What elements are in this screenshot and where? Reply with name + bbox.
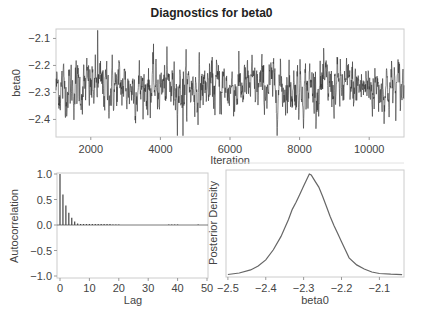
svg-text:−0.5: −0.5 (30, 245, 52, 257)
svg-text:−2.1: −2.1 (28, 32, 50, 44)
svg-text:−2.3: −2.3 (28, 86, 50, 98)
svg-text:2000: 2000 (79, 143, 103, 155)
diagnostics-figure: Diagnostics for beta0 200040006000800010… (0, 0, 423, 320)
svg-text:8000: 8000 (287, 143, 311, 155)
trace-ylabel: beta0 (10, 69, 22, 97)
svg-text:−2.2: −2.2 (28, 59, 50, 71)
svg-text:−1.0: −1.0 (30, 270, 52, 282)
density-x-axis: −2.5−2.4−2.3−2.2−2.1 (217, 277, 390, 294)
autocorrelation-plot: 01020304050 1.00.50.0−0.5−1.0 Lag Autoco… (8, 168, 213, 306)
acf-y-axis: 1.00.50.0−0.5−1.0 (30, 168, 57, 282)
trace-y-axis: −2.1−2.2−2.3−2.4 (28, 32, 56, 125)
trace-plot: 200040006000800010000 −2.1−2.2−2.3−2.4 I… (10, 29, 404, 166)
svg-text:−2.4: −2.4 (28, 113, 50, 125)
svg-text:20: 20 (113, 282, 125, 294)
svg-text:−2.2: −2.2 (331, 282, 353, 294)
svg-text:50: 50 (201, 282, 213, 294)
density-plot-frame (226, 170, 404, 277)
density-ylabel: Posterior Density (207, 181, 219, 265)
acf-x-axis: 01020304050 (57, 278, 213, 294)
svg-text:40: 40 (171, 282, 183, 294)
density-curve (228, 174, 402, 275)
svg-text:30: 30 (142, 282, 154, 294)
svg-text:−2.1: −2.1 (369, 282, 391, 294)
acf-plot-frame (57, 173, 208, 278)
acf-ylabel: Autocorrelation (8, 189, 20, 263)
svg-text:0.0: 0.0 (37, 219, 52, 231)
svg-text:4000: 4000 (148, 143, 172, 155)
trace-line (56, 30, 404, 135)
svg-text:0: 0 (57, 282, 63, 294)
acf-xlabel: Lag (124, 294, 142, 306)
svg-text:10000: 10000 (354, 143, 385, 155)
svg-text:−2.5: −2.5 (217, 282, 239, 294)
svg-text:10: 10 (83, 282, 95, 294)
trace-x-axis: 200040006000800010000 (79, 137, 385, 155)
svg-text:0.5: 0.5 (37, 194, 52, 206)
svg-text:1.0: 1.0 (37, 168, 52, 180)
trace-xlabel: Iteration (210, 154, 250, 166)
density-xlabel: beta0 (301, 294, 329, 306)
svg-text:−2.4: −2.4 (255, 282, 277, 294)
posterior-density-plot: −2.5−2.4−2.3−2.2−2.1 beta0 Posterior Den… (207, 170, 404, 306)
acf-bars (60, 174, 198, 225)
svg-text:−2.3: −2.3 (293, 282, 315, 294)
charts-canvas: 200040006000800010000 −2.1−2.2−2.3−2.4 I… (0, 0, 423, 320)
